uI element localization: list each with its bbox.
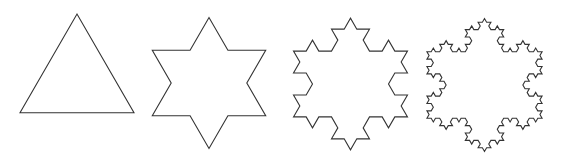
koch-iteration-3 <box>427 19 542 152</box>
koch-snowflake-figure <box>0 0 561 165</box>
koch-iteration-1 <box>152 18 265 149</box>
koch-iteration-2 <box>294 18 408 150</box>
koch-iteration-0 <box>20 14 134 113</box>
